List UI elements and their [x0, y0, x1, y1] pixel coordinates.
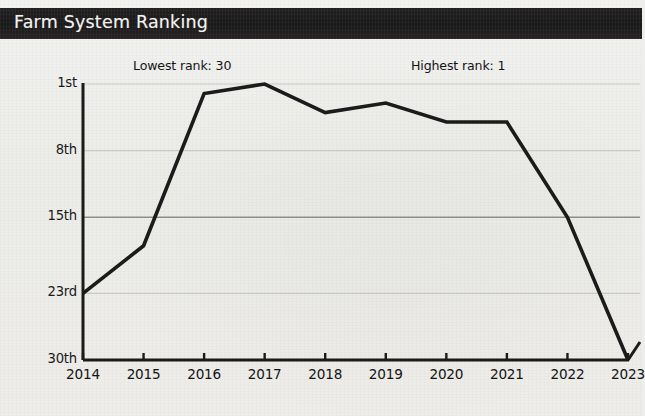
ranking-line-series [83, 84, 628, 360]
page-title: Farm System Ranking [14, 12, 208, 32]
x-axis-line [83, 342, 640, 360]
axis-lines [83, 83, 640, 360]
